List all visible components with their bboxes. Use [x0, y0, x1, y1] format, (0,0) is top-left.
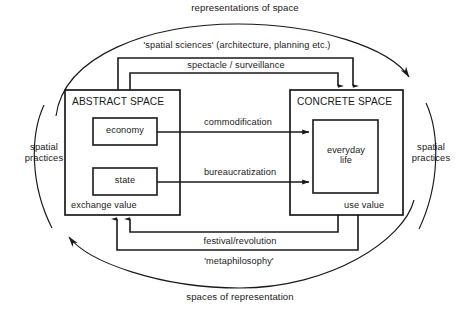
state-label: state: [115, 176, 135, 186]
arc-label-top: representations of space: [191, 3, 298, 13]
flow-label-spatial-sciences: 'spatial sciences' (architecture, planni…: [143, 41, 330, 51]
side-label-left-line1: spatial: [14, 141, 74, 152]
arc-label-bottom: spaces of representation: [186, 292, 293, 302]
side-label-right-line1: spatial: [400, 141, 462, 152]
concrete-space-corner-label: use value: [344, 201, 384, 211]
flow-spectacle-surveillance: [130, 73, 338, 90]
side-label-right: spatial practices: [400, 141, 462, 164]
concrete-space-title: CONCRETE SPACE: [297, 96, 392, 107]
arc-spatial-practices-left: [34, 105, 52, 228]
arc-spatial-practices-right: [419, 103, 436, 229]
abstract-space-corner-label: exchange value: [71, 201, 137, 211]
lefebvre-space-diagram: representations of space spaces of repre…: [0, 0, 471, 315]
flow-label-metaphilosophy: 'metaphilosophy': [204, 257, 273, 267]
everyday-life-label: everyday life: [327, 146, 365, 166]
side-label-left-line2: practices: [14, 152, 74, 163]
flow-label-commodification: commodification: [204, 118, 272, 128]
economy-label: economy: [106, 126, 144, 136]
flow-label-festival-revolution: festival/revolution: [204, 237, 277, 247]
flow-label-spectacle-surveillance: spectacle / surveillance: [187, 61, 284, 71]
side-label-right-line2: practices: [400, 152, 462, 163]
abstract-space-box: [65, 90, 180, 215]
flow-label-bureaucratization: bureaucratization: [204, 168, 276, 178]
flow-festival-revolution: [130, 215, 338, 232]
side-label-left: spatial practices: [14, 141, 74, 164]
everyday-life-label-line2: life: [327, 156, 365, 166]
abstract-space-title: ABSTRACT SPACE: [72, 96, 164, 107]
